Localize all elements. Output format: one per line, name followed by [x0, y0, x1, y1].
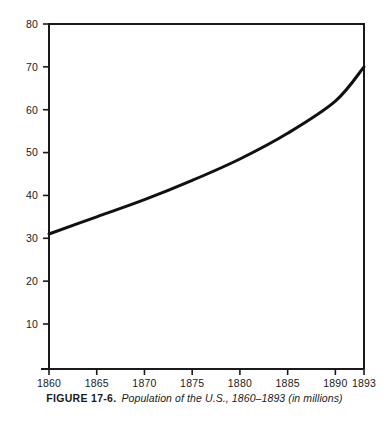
svg-text:1890: 1890	[323, 377, 347, 389]
figure-caption: FIGURE 17-6.Population of the U.S., 1860…	[0, 391, 389, 405]
x-axis-tick-labels: 18601865187018751880188518901893	[37, 377, 376, 389]
svg-text:1893: 1893	[352, 377, 376, 389]
svg-text:1885: 1885	[276, 377, 300, 389]
svg-text:1880: 1880	[228, 377, 252, 389]
figure-caption-text: Population of the U.S., 1860–1893 (in mi…	[121, 392, 342, 404]
figure-17-6: 1020304050607080 18601865187018751880188…	[0, 0, 389, 422]
svg-text:60: 60	[26, 104, 38, 116]
svg-text:10: 10	[26, 318, 38, 330]
svg-text:30: 30	[26, 232, 38, 244]
svg-text:70: 70	[26, 61, 38, 73]
svg-text:1875: 1875	[180, 377, 204, 389]
plot-frame	[41, 24, 364, 369]
svg-text:1870: 1870	[132, 377, 156, 389]
population-line-chart: 1020304050607080 18601865187018751880188…	[0, 0, 389, 400]
svg-text:20: 20	[26, 275, 38, 287]
svg-text:1860: 1860	[37, 377, 61, 389]
svg-text:1865: 1865	[85, 377, 109, 389]
svg-text:40: 40	[26, 189, 38, 201]
svg-text:80: 80	[26, 18, 38, 30]
population-curve	[49, 67, 364, 234]
figure-caption-number: FIGURE 17-6.	[46, 392, 116, 404]
y-axis-tick-labels: 1020304050607080	[26, 18, 38, 330]
svg-text:50: 50	[26, 146, 38, 158]
